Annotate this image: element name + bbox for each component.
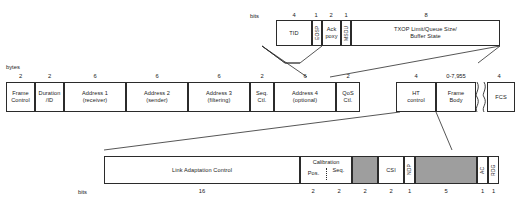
field-reserved-2 — [415, 156, 477, 184]
field-address-1-label-1: Address 1 — [82, 90, 108, 97]
field-txop-limit: TXOP Limit/Queue Size/ Buffer State — [351, 20, 500, 46]
field-address-1-label-2: (receiver) — [83, 97, 108, 104]
field-calibration-group-label: Calibration — [300, 159, 352, 166]
field-sequence-control-label-2: Ctl. — [258, 97, 267, 104]
field-rdg-label: RDG — [490, 164, 497, 175]
field-address-2: Address 2 (sender) — [126, 82, 188, 112]
calibration-divider — [326, 168, 327, 180]
field-ack-policy-label-1: Ack — [327, 26, 337, 33]
mac-size-duration-id: 2 — [35, 73, 64, 79]
qos-size-msdu: 1 — [341, 12, 351, 18]
field-fcs-label: FCS — [495, 94, 507, 101]
field-ac-label: AC — [479, 166, 486, 173]
ht-size-reserved-2: 5 — [415, 188, 477, 194]
mac-size-address-4: 6 — [274, 73, 336, 79]
field-frame-control-label-2: Control — [11, 97, 30, 104]
field-address-2-label-2: (sender) — [146, 97, 168, 104]
qos-size-ack-policy: 2 — [322, 12, 340, 18]
field-address-4-label-1: Address 4 — [292, 90, 318, 97]
qos-row-unit-label: bits — [250, 13, 259, 19]
field-address-3: Address 3 (filtering) — [188, 82, 250, 112]
field-csi-label: CSI — [386, 167, 396, 174]
field-duration-id-label-2: /ID — [46, 97, 53, 104]
field-address-3-label-2: (filtering) — [208, 97, 231, 104]
field-eosp-label: EOSP — [314, 26, 321, 40]
field-eosp: EOSP — [312, 20, 322, 46]
field-ht-control-label-2: control — [407, 97, 425, 104]
field-address-2-label-1: Address 2 — [144, 90, 170, 97]
ht-row-unit-label: bits — [78, 189, 87, 195]
field-msdu-label: MSDU — [343, 25, 350, 40]
field-address-3-label-1: Address 3 — [206, 90, 232, 97]
field-reserved-1 — [352, 156, 378, 184]
qos-size-eosp: 1 — [311, 12, 321, 18]
field-frame-control-label-1: Frame — [12, 90, 29, 97]
field-qos-control-label-2: Ctl. — [344, 97, 353, 104]
field-ac: AC — [477, 156, 488, 184]
field-txop-limit-label-2: Buffer State — [410, 33, 441, 40]
ht-size-csi: 2 — [378, 188, 404, 194]
field-tid-label: TID — [289, 30, 298, 37]
mac-size-ht-control: 4 — [396, 73, 436, 79]
field-link-adaptation-control: Link Adaptation Control — [104, 156, 300, 184]
field-frame-body-label-1: Frame — [448, 90, 465, 97]
ht-size-calibration-position: 2 — [300, 188, 326, 194]
field-txop-limit-label-1: TXOP Limit/Queue Size/ — [394, 26, 457, 33]
field-ack-policy: Ack poxy — [322, 20, 341, 46]
field-ndp: NDP — [404, 156, 415, 184]
mac-size-frame-body: 0-7,955 — [436, 73, 476, 79]
qos-size-txop: 8 — [353, 12, 499, 18]
field-frame-control: Frame Control — [6, 82, 35, 112]
field-fcs: FCS — [487, 82, 515, 112]
field-sequence-control: Seq. Ctl. — [250, 82, 274, 112]
field-rdg: RDG — [488, 156, 499, 184]
mac-size-address-1: 6 — [64, 73, 126, 79]
field-ndp-label: NDP — [406, 165, 413, 176]
field-frame-body: Frame Body — [436, 82, 476, 112]
ht-size-ndp: 1 — [404, 188, 415, 194]
field-csi: CSI — [378, 156, 404, 184]
field-ack-policy-label-2: poxy — [325, 33, 337, 40]
ht-size-link-adaptation-control: 16 — [104, 188, 300, 194]
field-address-4: Address 4 (optional) — [274, 82, 336, 112]
frame-format-diagram: bits 4 1 2 1 8 TID EOSP Ack poxy MSDU TX… — [0, 0, 518, 203]
qos-size-tid: 4 — [276, 12, 312, 18]
field-calibration-position-label: Pos. — [308, 170, 320, 177]
frame-break-icon — [474, 82, 488, 112]
field-ht-control: HT control — [396, 82, 436, 112]
mac-size-address-2: 6 — [126, 73, 188, 79]
field-ht-control-label-1: HT — [412, 90, 420, 97]
field-sequence-control-label-1: Seq. — [256, 90, 268, 97]
field-qos-control: QoS Ctl. — [336, 82, 360, 112]
field-frame-body-label-2: Body — [449, 97, 462, 104]
field-calibration-sequence-label: Seq. — [333, 167, 345, 174]
field-address-1: Address 1 (receiver) — [64, 82, 126, 112]
ht-size-calibration-sequence: 2 — [326, 188, 352, 194]
field-duration-id: Duration /ID — [35, 82, 64, 112]
field-address-4-label-2: (optional) — [293, 97, 317, 104]
ht-size-ac: 1 — [477, 188, 488, 194]
field-msdu: MSDU — [341, 20, 351, 46]
mac-size-fcs: 4 — [483, 73, 515, 79]
field-qos-control-label-1: QoS — [342, 90, 354, 97]
field-tid: TID — [276, 20, 312, 46]
field-duration-id-label-1: Duration — [39, 90, 61, 97]
ht-size-rdg: 1 — [488, 188, 499, 194]
ht-size-reserved-1: 2 — [352, 188, 378, 194]
mac-size-seq-ctl: 2 — [250, 73, 274, 79]
mac-row-unit-label: bytes — [6, 64, 20, 70]
mac-size-address-3: 6 — [188, 73, 250, 79]
mac-size-qos-ctl: 2 — [336, 73, 360, 79]
mac-size-frame-control: 2 — [6, 73, 35, 79]
field-link-adaptation-control-label: Link Adaptation Control — [172, 167, 232, 174]
